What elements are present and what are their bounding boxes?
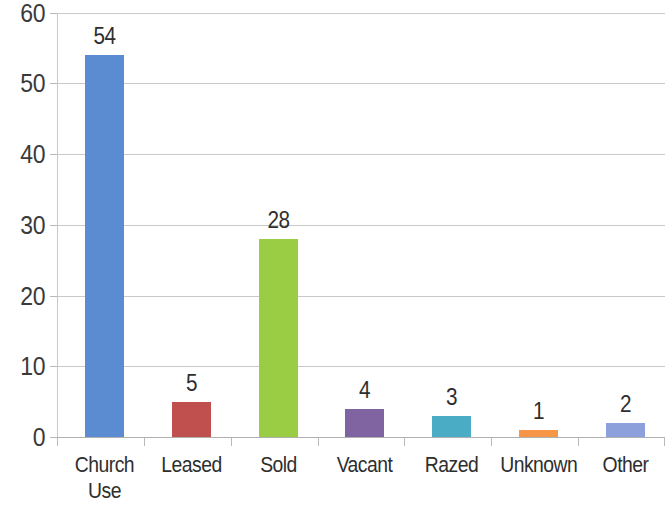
x-tick-6 — [578, 437, 579, 446]
x-axis-label-church-use: Church Use — [66, 452, 143, 504]
x-axis-label-leased: Leased — [153, 452, 230, 478]
y-axis-label-50: 50 — [4, 71, 45, 96]
y-axis-line — [57, 13, 58, 438]
y-axis-label-20: 20 — [4, 284, 45, 309]
y-axis-label-60: 60 — [4, 1, 45, 26]
x-tick-3 — [318, 437, 319, 446]
x-axis-label-vacant: Vacant — [326, 452, 403, 478]
x-axis-label-sold: Sold — [240, 452, 317, 478]
x-tick-5 — [491, 437, 492, 446]
y-axis-label-40: 40 — [4, 142, 45, 167]
gridline-50 — [57, 83, 665, 84]
bar-other[interactable] — [606, 423, 645, 437]
x-axis-label-church-use-line2: Use — [66, 478, 143, 504]
x-axis-label-other: Other — [587, 452, 664, 478]
bar-vacant[interactable] — [345, 409, 384, 437]
axis-baseline — [57, 437, 665, 438]
bar-sold[interactable] — [259, 239, 298, 437]
gridline-60 — [57, 13, 665, 14]
x-tick-1 — [144, 437, 145, 446]
y-tick-20 — [50, 296, 57, 297]
bar-unknown[interactable] — [519, 430, 558, 437]
bar-label-unknown: 1 — [507, 400, 571, 423]
y-tick-0 — [50, 437, 57, 438]
x-tick-2 — [231, 437, 232, 446]
y-axis-label-30: 30 — [4, 213, 45, 238]
bar-label-other: 2 — [594, 393, 658, 416]
bar-church-use[interactable] — [85, 55, 124, 437]
gridline-10 — [57, 366, 665, 367]
y-axis-label-0: 0 — [4, 425, 45, 450]
gridline-30 — [57, 225, 665, 226]
gridline-40 — [57, 154, 665, 155]
y-tick-40 — [50, 154, 57, 155]
x-tick-0 — [57, 437, 58, 446]
bar-label-leased: 5 — [160, 372, 224, 395]
bar-chart: 60 50 40 30 20 10 0 54 5 28 4 3 1 2 Chur… — [0, 0, 665, 514]
bar-label-vacant: 4 — [333, 379, 397, 402]
y-tick-30 — [50, 225, 57, 226]
bar-label-sold: 28 — [247, 209, 311, 232]
x-tick-4 — [404, 437, 405, 446]
x-axis-label-razed: Razed — [413, 452, 490, 478]
bar-leased[interactable] — [172, 402, 211, 437]
gridline-20 — [57, 296, 665, 297]
x-axis-label-church-use-line1: Church — [75, 452, 134, 477]
y-tick-50 — [50, 83, 57, 84]
y-tick-10 — [50, 366, 57, 367]
bar-razed[interactable] — [432, 416, 471, 437]
bar-label-church-use: 54 — [73, 25, 137, 48]
x-axis-label-unknown: Unknown — [500, 452, 577, 478]
y-tick-60 — [50, 13, 57, 14]
y-axis-label-10: 10 — [4, 354, 45, 379]
bar-label-razed: 3 — [420, 386, 484, 409]
